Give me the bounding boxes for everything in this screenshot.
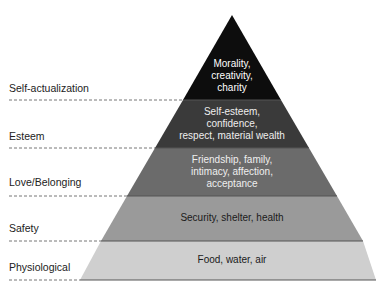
pyramid-graphic [0, 0, 386, 293]
text-safety: Security, shelter, health [162, 212, 302, 224]
text-self-actualization: Morality, creativity, charity [172, 58, 292, 94]
label-esteem: Esteem [9, 130, 45, 142]
label-physiological: Physiological [9, 261, 70, 273]
text-love-belonging: Friendship, family, intimacy, affection,… [162, 154, 302, 190]
text-esteem: Self-esteem, confidence, respect, materi… [162, 106, 302, 142]
pyramid-diagram: Self-actualization Esteem Love/Belonging… [0, 0, 386, 293]
label-self-actualization: Self-actualization [9, 82, 89, 94]
text-physiological: Food, water, air [162, 254, 302, 266]
label-love-belonging: Love/Belonging [9, 176, 81, 188]
label-safety: Safety [9, 222, 39, 234]
